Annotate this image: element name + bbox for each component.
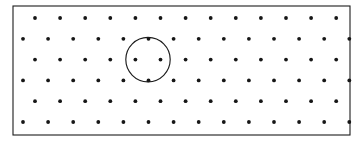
lattice-dot xyxy=(197,79,201,83)
lattice-dot xyxy=(134,99,138,103)
lattice-dot xyxy=(247,79,251,83)
lattice-dot xyxy=(284,58,288,62)
lattice-dot xyxy=(96,120,100,124)
lattice-dot xyxy=(71,120,75,124)
lattice-dot xyxy=(347,79,351,83)
lattice-dot xyxy=(96,79,100,83)
lattice-dot xyxy=(347,37,351,41)
lattice-dot xyxy=(272,79,276,83)
lattice-dot xyxy=(334,16,338,20)
lattice-figure xyxy=(0,0,359,144)
lattice-dot xyxy=(33,58,37,62)
lattice-dot xyxy=(209,16,213,20)
lattice-dot xyxy=(83,99,87,103)
lattice-dot xyxy=(21,79,25,83)
lattice-dot xyxy=(172,120,176,124)
lattice-dot xyxy=(309,16,313,20)
lattice-dot xyxy=(259,16,263,20)
lattice-dot xyxy=(134,16,138,20)
neighbour-ring-circle xyxy=(126,37,170,81)
lattice-dot xyxy=(234,16,238,20)
lattice-dot xyxy=(71,37,75,41)
lattice-dot xyxy=(33,16,37,20)
lattice-dot xyxy=(58,16,62,20)
lattice-dot xyxy=(284,99,288,103)
lattice-dot xyxy=(83,16,87,20)
lattice-dot xyxy=(58,99,62,103)
lattice-dot xyxy=(71,79,75,83)
lattice-dot xyxy=(309,58,313,62)
lattice-dot xyxy=(96,37,100,41)
lattice-dot xyxy=(159,16,163,20)
lattice-dot xyxy=(297,79,301,83)
lattice-dot xyxy=(209,99,213,103)
lattice-dot xyxy=(46,79,50,83)
lattice-dot xyxy=(284,16,288,20)
lattice-dot xyxy=(108,16,112,20)
lattice-dot xyxy=(147,120,151,124)
lattice-dot xyxy=(172,37,176,41)
lattice-dot xyxy=(322,120,326,124)
lattice-dot xyxy=(347,120,351,124)
lattice-dot xyxy=(108,99,112,103)
lattice-dot xyxy=(108,58,112,62)
lattice-dot xyxy=(122,37,126,41)
lattice-dot xyxy=(46,37,50,41)
lattice-dot xyxy=(272,37,276,41)
lattice-dot xyxy=(122,79,126,83)
lattice-dot xyxy=(33,99,37,103)
lattice-dot xyxy=(197,37,201,41)
lattice-dot xyxy=(247,120,251,124)
lattice-dot xyxy=(234,58,238,62)
lattice-dot xyxy=(184,58,188,62)
figure-canvas xyxy=(0,0,359,144)
lattice-dot xyxy=(184,16,188,20)
lattice-dot-group xyxy=(21,16,351,124)
lattice-dot xyxy=(322,79,326,83)
lattice-dot xyxy=(297,120,301,124)
lattice-dot xyxy=(184,99,188,103)
lattice-dot xyxy=(197,120,201,124)
lattice-dot xyxy=(272,120,276,124)
lattice-dot xyxy=(21,37,25,41)
lattice-dot xyxy=(83,58,87,62)
lattice-dot xyxy=(134,58,138,62)
lattice-dot xyxy=(222,37,226,41)
lattice-dot xyxy=(297,37,301,41)
lattice-dot xyxy=(122,120,126,124)
lattice-dot xyxy=(222,79,226,83)
lattice-dot xyxy=(234,99,238,103)
lattice-dot xyxy=(222,120,226,124)
lattice-dot xyxy=(334,58,338,62)
lattice-dot xyxy=(159,99,163,103)
lattice-dot xyxy=(247,37,251,41)
lattice-dot xyxy=(259,99,263,103)
lattice-dot xyxy=(309,99,313,103)
lattice-dot xyxy=(259,58,263,62)
lattice-dot xyxy=(334,99,338,103)
lattice-dot xyxy=(46,120,50,124)
lattice-dot xyxy=(322,37,326,41)
figure-border xyxy=(13,6,350,135)
lattice-dot xyxy=(58,58,62,62)
lattice-dot xyxy=(209,58,213,62)
lattice-dot xyxy=(172,79,176,83)
lattice-dot xyxy=(159,58,163,62)
lattice-dot xyxy=(21,120,25,124)
